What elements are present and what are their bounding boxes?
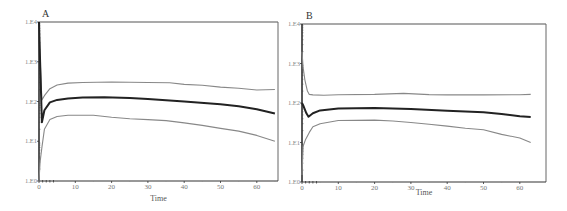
series-lower-line	[39, 115, 275, 181]
panel-title: B	[306, 10, 313, 21]
x-tick-label: 30	[407, 184, 415, 192]
x-tick-label: 10	[72, 183, 80, 191]
panel-a-chart: 1.E01.E11.E21.E31.E40102030405060ATime	[25, 8, 278, 203]
series-median-line	[39, 22, 275, 122]
y-tick-label: 1.E3	[25, 58, 37, 65]
y-tick-label: 1.E4	[25, 18, 38, 25]
y-tick-label: 1.E3	[288, 60, 300, 67]
y-tick-label: 1.E0	[288, 178, 300, 185]
x-tick-label: 60	[516, 184, 524, 192]
x-tick-label: 10	[335, 184, 343, 192]
panel-title: A	[42, 8, 50, 19]
x-tick-label: 50	[217, 183, 225, 191]
series-upper-line	[39, 22, 275, 100]
x-tick-label: 20	[108, 183, 116, 191]
y-tick-label: 1.E2	[288, 99, 300, 106]
x-axis-label: Time	[150, 194, 167, 203]
x-axis-label: Time	[416, 188, 433, 197]
x-tick-label: 30	[144, 183, 152, 191]
y-tick-label: 1.E1	[25, 137, 37, 144]
series-upper-line	[302, 52, 531, 96]
x-tick-label: 50	[480, 184, 488, 192]
x-tick-label: 0	[300, 184, 304, 192]
figure: 1.E01.E11.E21.E31.E40102030405060ATime 1…	[0, 0, 567, 211]
panel-b-chart: 1.E01.E11.E21.E31.E40102030405060BTime	[288, 10, 546, 197]
x-tick-label: 60	[253, 183, 261, 191]
series-lower-line	[302, 120, 531, 175]
x-tick-label: 0	[37, 183, 41, 191]
x-tick-label: 20	[371, 184, 379, 192]
y-tick-label: 1.E4	[288, 20, 301, 27]
y-tick-label: 1.E1	[288, 139, 300, 146]
y-tick-label: 1.E0	[25, 177, 37, 184]
x-tick-label: 40	[181, 183, 189, 191]
x-tick-label: 40	[444, 184, 452, 192]
series-median-line	[302, 103, 531, 117]
y-tick-label: 1.E2	[25, 98, 37, 105]
